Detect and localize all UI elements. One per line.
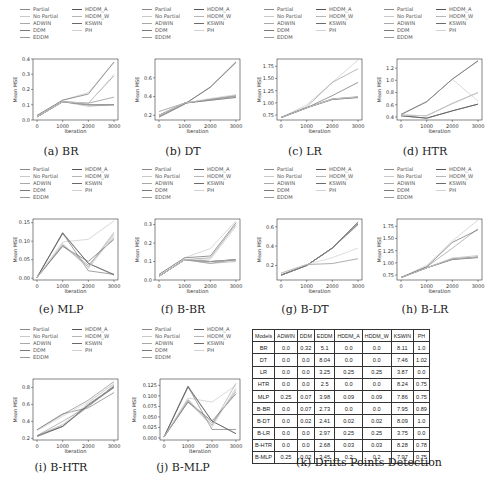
line-chart: 0.751.001.251.501.750100020003000Iterati… xyxy=(364,160,486,300)
table-header-row: Models ADWIN DDM EDDM HDDM_A HDDM_W KSWI… xyxy=(253,330,430,342)
series-line xyxy=(37,97,114,117)
col-header: KSWIN xyxy=(391,330,413,342)
y-axis-label: Mean MSE xyxy=(12,397,18,423)
y-tick-label: 0.1 xyxy=(22,102,30,108)
chart-panel-a: PartialNo PartialADWINDDMEDDMHDDM_AHDDM_… xyxy=(0,0,122,160)
drift-value-cell: 7.46 xyxy=(391,354,413,366)
drift-value-cell: 0.0 xyxy=(297,427,314,439)
y-tick-label: 1.75 xyxy=(383,223,394,229)
table-row: DT0.00.08.040.00.07.461.02 xyxy=(253,354,430,366)
series-line xyxy=(281,224,358,275)
subfigure-caption: (i) B-HTR xyxy=(0,461,122,474)
x-axis-label: Iteration xyxy=(428,128,450,134)
drift-value-cell: 0.0 xyxy=(275,415,298,427)
chart-panel-h: PartialNo PartialADWINDDMEDDMHDDM_AHDDM_… xyxy=(364,160,486,320)
drift-value-cell: 0.0 xyxy=(275,354,298,366)
drift-value-cell: 0.0 xyxy=(335,342,362,354)
series-line xyxy=(37,385,114,436)
x-axis-label: Iteration xyxy=(64,448,86,454)
series-line xyxy=(159,97,236,115)
drift-value-cell: 1.02 xyxy=(414,354,430,366)
y-tick-label: 0.025 xyxy=(143,424,157,430)
y-tick-label: 0.2 xyxy=(22,435,30,441)
line-chart: 0.000.050.100.150100020003000IterationMe… xyxy=(0,160,122,300)
drift-value-cell: 2.97 xyxy=(314,427,335,439)
y-axis-label: Mean MSE xyxy=(376,77,382,103)
line-chart: 0.20.40.60100020003000IterationMean MSE xyxy=(122,0,244,140)
drift-value-cell: 0.0 xyxy=(297,366,314,378)
model-name-cell: B-LR xyxy=(253,427,275,439)
x-tick-label: 0 xyxy=(35,123,38,129)
table-row: LR0.00.03.250.250.253.870.0 xyxy=(253,366,430,378)
series-line xyxy=(401,257,478,278)
y-axis-label: Mean MSE xyxy=(12,237,18,263)
drift-value-cell: 0.0 xyxy=(275,366,298,378)
series-line xyxy=(37,74,114,117)
y-tick-label: 1.50 xyxy=(263,75,274,81)
x-tick-label: 3000 xyxy=(108,283,121,289)
table-row: B-LR0.00.02.970.250.253.750.0 xyxy=(253,427,430,439)
model-name-cell: B-BR xyxy=(253,403,275,415)
x-axis-label: Iteration xyxy=(189,448,211,454)
series-line xyxy=(281,82,358,117)
series-line xyxy=(159,221,236,275)
x-tick-label: 3000 xyxy=(230,443,243,449)
x-axis-label: Iteration xyxy=(308,128,330,134)
x-tick-label: 3000 xyxy=(472,123,485,129)
table-row: BR0.00.325.10.00.08.111.0 xyxy=(253,342,430,354)
axes-frame xyxy=(397,219,482,280)
y-tick-label: 0.2 xyxy=(144,240,152,246)
col-header: PH xyxy=(414,330,430,342)
series-line xyxy=(37,102,114,117)
y-axis-label: Mean MSE xyxy=(134,77,140,103)
series-line xyxy=(281,69,358,118)
y-tick-label: 0.100 xyxy=(143,393,157,399)
x-tick-label: 3000 xyxy=(230,283,243,289)
series-line xyxy=(401,258,478,278)
series-line xyxy=(401,230,478,278)
x-axis-label: Iteration xyxy=(186,128,208,134)
series-line xyxy=(281,97,358,118)
x-axis-label: Iteration xyxy=(308,288,330,294)
chart-panel-i: PartialNo PartialADWINDDMEDDMHDDM_AHDDM_… xyxy=(0,320,122,480)
line-chart: 0.751.001.251.501.750100020003000Iterati… xyxy=(244,0,366,140)
y-tick-label: 0.75 xyxy=(383,272,394,278)
series-line xyxy=(401,256,478,278)
x-tick-label: 0 xyxy=(157,283,160,289)
y-tick-label: 1.0 xyxy=(386,77,394,83)
drift-value-cell: 0.02 xyxy=(297,415,314,427)
drift-value-cell: 0.07 xyxy=(297,390,314,402)
axes-frame xyxy=(277,59,362,120)
y-tick-label: 0.1 xyxy=(144,258,152,264)
series-line xyxy=(159,223,236,275)
y-tick-label: 0.10 xyxy=(19,238,30,244)
drift-value-cell: 0.02 xyxy=(362,415,391,427)
series-line xyxy=(281,223,358,275)
series-line xyxy=(281,225,358,275)
drift-value-cell: 0.0 xyxy=(297,354,314,366)
drift-value-cell: 8.28 xyxy=(391,439,413,451)
drift-value-cell: 0.0 xyxy=(275,378,298,390)
x-tick-label: 3000 xyxy=(472,283,485,289)
y-tick-label: 0.4 xyxy=(386,114,394,120)
y-tick-label: 0.0 xyxy=(22,117,30,123)
drift-value-cell: 8.24 xyxy=(391,378,413,390)
x-tick-label: 3000 xyxy=(108,123,121,129)
series-line xyxy=(281,60,358,118)
axes-frame xyxy=(277,219,362,280)
col-header: HDDM_W xyxy=(362,330,391,342)
axes-frame xyxy=(33,59,118,120)
drift-value-cell: 0.0 xyxy=(275,427,298,439)
x-tick-label: 0 xyxy=(399,123,402,129)
chart-panel-c: PartialNo PartialADWINDDMEDDMHDDM_AHDDM_… xyxy=(244,0,366,160)
series-line xyxy=(401,220,478,278)
series-line xyxy=(164,383,236,437)
drift-value-cell: 3.98 xyxy=(314,390,335,402)
chart-panel-f: PartialNo PartialADWINDDMEDDMHDDM_AHDDM_… xyxy=(122,160,244,320)
x-tick-label: 0 xyxy=(279,123,282,129)
y-tick-label: 1.00 xyxy=(383,260,394,266)
subfigure-caption: (c) LR xyxy=(244,145,366,158)
series-line xyxy=(401,104,478,118)
drift-value-cell: 0.03 xyxy=(335,439,362,451)
drift-value-cell: 2.41 xyxy=(314,415,335,427)
